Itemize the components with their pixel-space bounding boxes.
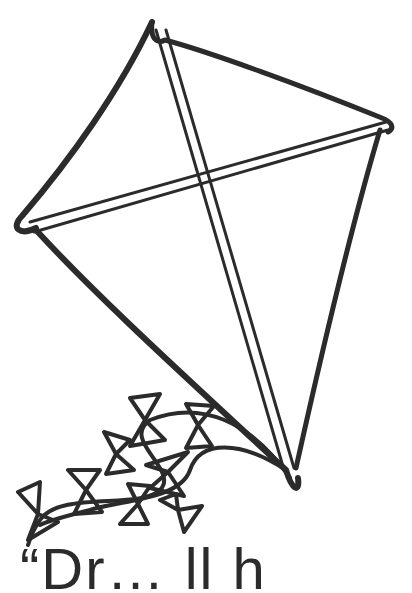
caption-text: “Dr… ll h [20,540,267,593]
kite-spar-vertical [156,30,294,470]
kite-tail-bows [18,394,214,540]
